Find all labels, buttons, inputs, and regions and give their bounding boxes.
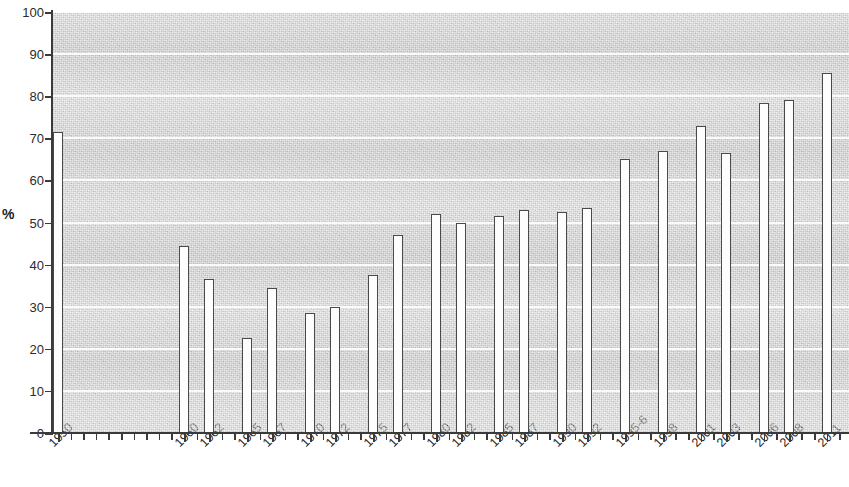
x-axis-tick-minor xyxy=(839,433,841,440)
x-axis-tick-major xyxy=(789,433,791,442)
y-axis-tick xyxy=(45,138,51,140)
x-axis-tick-minor xyxy=(423,433,425,440)
y-axis-labels: 0102030405060708090100 xyxy=(0,0,44,487)
x-axis-tick-major xyxy=(461,433,463,442)
x-axis-tick-minor xyxy=(537,433,539,440)
x-axis-tick-major xyxy=(335,433,337,442)
bar xyxy=(784,100,794,433)
x-axis-tick-minor xyxy=(411,433,413,440)
gridline xyxy=(52,137,849,139)
x-axis-tick-minor xyxy=(285,433,287,440)
x-axis-tick-minor xyxy=(449,433,451,440)
bar xyxy=(494,216,504,433)
x-axis-tick-minor xyxy=(146,433,148,440)
bar xyxy=(557,212,567,433)
x-axis-tick-major xyxy=(436,433,438,442)
y-axis-tick-label: 60 xyxy=(30,174,44,187)
y-axis-tick-label: 40 xyxy=(30,259,44,272)
x-axis-tick-minor xyxy=(486,433,488,440)
x-axis-tick-major xyxy=(827,433,829,442)
x-axis-tick-major xyxy=(373,433,375,442)
x-axis-tick-minor xyxy=(222,433,224,440)
bar xyxy=(696,126,706,433)
bar xyxy=(53,132,63,433)
x-axis-tick-major xyxy=(499,433,501,442)
bar-chart: % 0102030405060708090100 195019601962196… xyxy=(0,0,849,487)
bar xyxy=(204,279,214,433)
x-axis-tick-minor xyxy=(386,433,388,440)
y-axis-tick-label: 20 xyxy=(30,343,44,356)
x-axis-tick-minor xyxy=(776,433,778,440)
x-axis-tick-major xyxy=(625,433,627,442)
y-axis-tick xyxy=(45,96,51,98)
x-axis-tick-minor xyxy=(297,433,299,440)
gridline xyxy=(52,95,849,97)
x-axis-tick-minor xyxy=(159,433,161,440)
y-axis-tick xyxy=(45,12,51,14)
y-axis-line xyxy=(51,10,53,435)
x-axis-tick-minor xyxy=(71,433,73,440)
y-axis-tick-label: 80 xyxy=(30,90,44,103)
x-axis-tick-major xyxy=(247,433,249,442)
x-axis-tick-minor xyxy=(801,433,803,440)
bar xyxy=(759,103,769,433)
x-axis-tick-minor xyxy=(512,433,514,440)
x-axis-tick-minor xyxy=(638,433,640,440)
x-axis-tick-major xyxy=(764,433,766,442)
x-axis-tick-minor xyxy=(348,433,350,440)
x-axis-tick-major xyxy=(701,433,703,442)
y-axis-tick xyxy=(45,265,51,267)
x-axis-tick-major xyxy=(310,433,312,442)
bar xyxy=(242,338,252,433)
x-axis-tick-minor xyxy=(549,433,551,440)
x-axis-tick-minor xyxy=(600,433,602,440)
x-axis-tick-minor xyxy=(675,433,677,440)
bar xyxy=(822,73,832,433)
x-axis-tick-major xyxy=(272,433,274,442)
x-axis-tick-minor xyxy=(751,433,753,440)
x-axis-tick-major xyxy=(209,433,211,442)
x-axis-tick-major xyxy=(398,433,400,442)
x-axis-tick-minor xyxy=(738,433,740,440)
y-axis-tick xyxy=(45,54,51,56)
x-axis-tick-minor xyxy=(323,433,325,440)
y-axis-tick-label: 70 xyxy=(30,132,44,145)
y-axis-tick-label: 100 xyxy=(22,6,44,19)
x-axis-tick-minor xyxy=(360,433,362,440)
plot-area xyxy=(52,12,849,433)
x-axis-tick-minor xyxy=(713,433,715,440)
bar xyxy=(393,235,403,433)
x-axis-tick-minor xyxy=(96,433,98,440)
bar xyxy=(305,313,315,433)
x-axis-tick-major xyxy=(562,433,564,442)
gridline xyxy=(52,53,849,55)
x-axis-tick-minor xyxy=(814,433,816,440)
x-axis-tick-major xyxy=(58,433,60,442)
gridline xyxy=(52,12,849,13)
x-axis-tick-minor xyxy=(108,433,110,440)
x-axis-tick-minor xyxy=(234,433,236,440)
x-axis-tick-minor xyxy=(575,433,577,440)
bar xyxy=(658,151,668,433)
bar xyxy=(330,307,340,433)
x-axis-tick-minor xyxy=(688,433,690,440)
x-axis-tick-minor xyxy=(134,433,136,440)
x-axis-tick-major xyxy=(184,433,186,442)
x-axis-tick-minor xyxy=(83,433,85,440)
x-axis-labels: 1950196019621965196719701972197519771980… xyxy=(0,440,849,487)
x-axis-tick-minor xyxy=(197,433,199,440)
bar xyxy=(721,153,731,433)
bar xyxy=(519,210,529,433)
x-axis-tick-major xyxy=(587,433,589,442)
x-axis-tick-major xyxy=(524,433,526,442)
x-axis-tick-minor xyxy=(121,433,123,440)
y-axis-tick-label: 50 xyxy=(30,217,44,230)
y-axis-tick-label: 10 xyxy=(30,385,44,398)
x-axis-tick-minor xyxy=(612,433,614,440)
y-axis-tick xyxy=(45,180,51,182)
bar xyxy=(456,223,466,434)
bar xyxy=(620,159,630,433)
bar xyxy=(582,208,592,433)
bar xyxy=(267,288,277,433)
bar xyxy=(431,214,441,433)
